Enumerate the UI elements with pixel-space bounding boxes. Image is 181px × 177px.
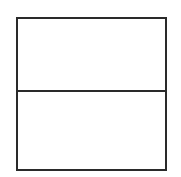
canvas [0, 0, 181, 177]
bottom-cell [18, 92, 165, 169]
two-cell-box [16, 17, 167, 171]
top-cell [18, 19, 165, 92]
